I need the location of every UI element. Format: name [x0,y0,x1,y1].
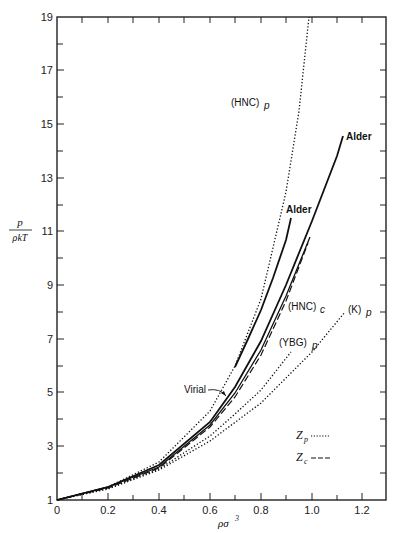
annotation-hnc-p: (HNC) p [231,97,270,111]
x-tick-label: 0 [54,504,60,516]
x-tick-labels: 0 0.2 0.4 0.6 0.8 1.0 1.2 [54,504,370,516]
curve-hnc-c [57,237,310,500]
svg-text:c: c [304,457,308,466]
svg-text:(YBG): (YBG) [279,337,307,348]
svg-text:p: p [365,307,372,318]
x-tick-label: 0.2 [100,504,115,516]
y-tick-label: 13 [41,172,53,184]
annotation-alder-lower: Alder [286,204,312,215]
curve-zc-dashed [57,243,308,500]
svg-text:(HNC): (HNC) [231,97,259,108]
y-axis-title: p ρkT [9,216,32,243]
y-ticks [57,44,386,473]
svg-text:Z: Z [296,428,303,442]
x-axis-label: ρσ [217,517,229,529]
svg-text:p: p [263,100,270,111]
chart: 1 3 5 7 9 11 13 15 17 19 0 0.2 0.4 0.6 0… [0,0,405,533]
y-tick-label: 5 [47,386,53,398]
legend-zc: Z c [296,450,331,466]
svg-text:p: p [303,435,308,444]
y-tick-label: 17 [41,64,53,76]
y-tick-label: 1 [47,494,53,506]
x-tick-label: 1.2 [354,504,369,516]
x-tick-label: 0.6 [202,504,217,516]
y-tick-label: 7 [47,333,53,345]
legend: Z p Z c [296,428,331,466]
curve-hnc-p [57,17,309,500]
svg-text:Z: Z [296,450,303,464]
y-tick-label: 3 [47,440,53,452]
curve-alder-upper [57,136,343,500]
legend-zp: Z p [296,428,330,444]
x-tick-label: 0.8 [253,504,268,516]
y-axis-numerator: p [16,216,23,228]
y-tick-label: 11 [42,225,53,237]
x-ticks [82,17,362,500]
svg-text:Virial: Virial [184,384,206,395]
y-axis-denominator: ρkT [12,232,29,243]
curve-ybg-p [57,352,291,500]
x-tick-label: 1.0 [304,504,319,516]
annotation-alder-upper: Alder [346,131,372,142]
svg-text:(K): (K) [348,304,361,315]
svg-text:(HNC): (HNC) [288,301,316,312]
x-axis-title: ρσ 3 [217,514,239,529]
y-tick-label: 9 [47,279,53,291]
svg-text:c: c [320,304,325,315]
annotation-virial: Virial [184,384,226,396]
annotation-k-p: (K) p [348,304,372,318]
y-tick-label: 19 [41,11,53,23]
svg-text:p: p [311,340,318,351]
annotation-ybg-p: (YBG) p [279,337,318,351]
x-tick-label: 0.4 [151,504,166,516]
plot-frame [57,17,386,500]
annotation-hnc-c: (HNC) c [288,301,325,315]
y-tick-labels: 1 3 5 7 9 11 13 15 17 19 [41,11,53,506]
y-tick-label: 15 [41,118,53,130]
x-axis-superscript: 3 [234,514,239,523]
